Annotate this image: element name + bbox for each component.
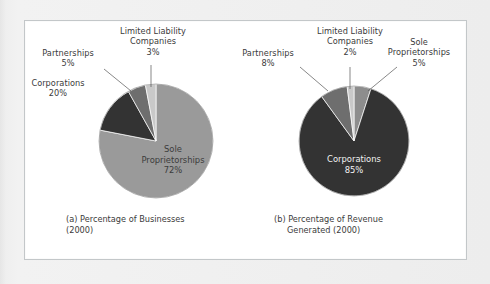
value-partnerships-a: 5% [34, 58, 102, 68]
figure-border-box: Limited Liability Companies 3% Partnersh… [24, 20, 467, 260]
label-partnerships-b: Partnerships 8% [234, 48, 302, 69]
leader-line-partnerships [104, 69, 131, 91]
caption-chart-a: (a) Percentage of Businesses (2000) [66, 214, 185, 236]
value-sole-proprietorships-b: 5% [375, 58, 463, 68]
value-sole-proprietorships-a: 72% [125, 165, 221, 176]
figure-screenshot: Limited Liability Companies 3% Partnersh… [0, 0, 490, 284]
value-llc-a: 3% [107, 47, 199, 57]
label-corporations-a: Corporations 20% [24, 78, 92, 99]
label-corporations-b: Corporations 85% [306, 154, 402, 175]
caption-chart-b: (b) Percentage of Revenue Generated (200… [274, 214, 383, 236]
value-corporations-b: 85% [306, 165, 402, 176]
label-sole-proprietorships-a: Sole Proprietorships 72% [125, 144, 221, 176]
chart-panel-b: Limited Liability Companies 2% Partnersh… [242, 21, 462, 259]
label-limited-liability-companies-a: Limited Liability Companies 3% [107, 26, 199, 57]
value-corporations-a: 20% [24, 88, 92, 98]
chart-panel-a: Limited Liability Companies 3% Partnersh… [25, 21, 245, 259]
label-sole-proprietorships-b: Sole Proprietorships 5% [375, 37, 463, 68]
leader-line-sole-proprietorships [368, 67, 397, 91]
label-partnerships-a: Partnerships 5% [34, 48, 102, 69]
leader-line-partnerships [300, 67, 328, 91]
value-partnerships-b: 8% [234, 58, 302, 68]
